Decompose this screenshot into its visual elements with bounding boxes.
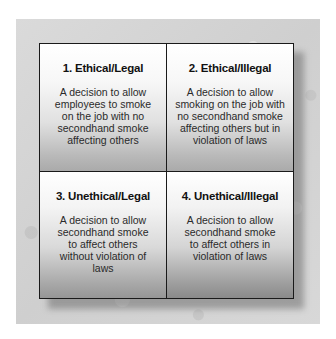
- quadrant-title: 4. Unethical/Illegal: [173, 190, 287, 202]
- quadrant-description: A decision to allow secondhand smoke to …: [173, 214, 287, 262]
- quadrant-ethical-legal: 1. Ethical/Legal A decision to allow emp…: [40, 44, 166, 171]
- quadrant-unethical-legal: 3. Unethical/Legal A decision to allow s…: [40, 172, 166, 299]
- quadrant-description: A decision to allow secondhand smoke to …: [46, 214, 160, 274]
- quadrant-description: A decision to allow employees to smoke o…: [46, 86, 160, 146]
- quadrant-description: A decision to allow smoking on the job w…: [173, 86, 287, 146]
- quadrant-title: 1. Ethical/Legal: [46, 62, 160, 74]
- quadrant-title: 2. Ethical/Illegal: [173, 62, 287, 74]
- quadrant-ethical-illegal: 2. Ethical/Illegal A decision to allow s…: [167, 44, 293, 171]
- quadrant-title: 3. Unethical/Legal: [46, 190, 160, 202]
- ethics-legality-matrix: 1. Ethical/Legal A decision to allow emp…: [39, 43, 294, 299]
- quadrant-unethical-illegal: 4. Unethical/Illegal A decision to allow…: [167, 172, 293, 299]
